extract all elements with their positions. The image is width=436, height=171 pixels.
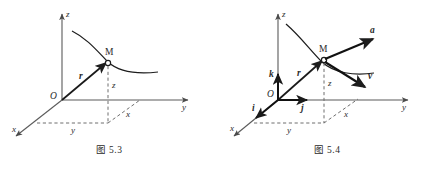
point-m-marker (105, 60, 110, 65)
x-projection-label: x (343, 109, 348, 119)
y-axis-label: y (401, 102, 406, 112)
x-axis-label: x (229, 123, 234, 133)
x-projection-dashed-line (324, 99, 358, 123)
unit-vector-i (256, 100, 278, 118)
figure-5-3-canvas: z y x O r M z y x (0, 0, 218, 146)
z-axis-label: z (65, 9, 70, 19)
trajectory-curve (286, 24, 374, 74)
x-axis-line (16, 100, 62, 136)
z-drop-label: z (327, 78, 332, 88)
unit-vector-j-label: j (299, 103, 304, 113)
x-projection-dashed-line (108, 100, 140, 123)
point-m-label: M (105, 47, 114, 57)
point-m-label: M (319, 44, 328, 54)
position-vector-r (62, 63, 106, 100)
position-vector-r (278, 61, 322, 100)
velocity-vector-label: v (368, 71, 373, 81)
acceleration-vector-label: a (370, 25, 375, 35)
x-projection-label: x (125, 109, 130, 119)
z-axis-label: z (281, 9, 286, 19)
unit-vector-i-label: i (252, 103, 255, 113)
figure-5-4: z y x O r M a v k (218, 0, 436, 171)
figure-page: z y x O r M z y x 图 5. (0, 0, 436, 171)
y-axis-label: y (181, 102, 186, 112)
origin-label: O (267, 89, 274, 99)
figure-5-4-caption: 图 5.4 (218, 142, 436, 156)
z-drop-label: z (111, 80, 116, 90)
trajectory-curve (72, 31, 158, 73)
figure-5-4-canvas: z y x O r M a v k (218, 0, 436, 146)
origin-label: O (50, 91, 57, 101)
figure-5-3-caption: 图 5.3 (0, 142, 218, 156)
position-vector-label: r (79, 71, 83, 81)
position-vector-label: r (297, 68, 301, 78)
x-axis-label: x (11, 124, 16, 134)
acceleration-vector-a (325, 39, 373, 59)
figure-5-3: z y x O r M z y x 图 5. (0, 0, 218, 171)
y-projection-label: y (70, 125, 75, 135)
y-projection-label: y (286, 125, 291, 135)
unit-vector-k-label: k (269, 69, 274, 79)
